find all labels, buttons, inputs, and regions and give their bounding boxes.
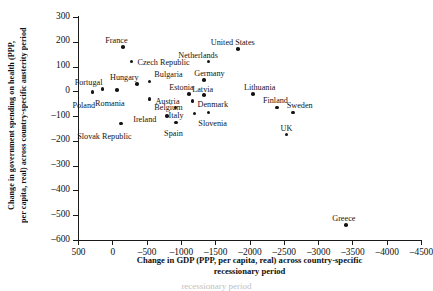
y-tick-label: –400 [51, 184, 70, 194]
x-tick: –1000 [181, 240, 182, 245]
x-axis-title: Change in GDP (PPP, per capita, real) ac… [78, 255, 421, 277]
y-tick-label: –200 [51, 134, 70, 144]
x-tick: 0 [112, 240, 113, 245]
data-point [251, 92, 255, 96]
y-tick: 0 [73, 91, 78, 92]
data-point [130, 60, 134, 64]
y-tick-label: –500 [51, 209, 70, 219]
data-point-label: Netherlands [178, 51, 218, 60]
data-point-label: Romania [95, 99, 125, 108]
data-point-label: Spain [164, 129, 183, 138]
data-point [344, 223, 348, 227]
data-point-label: UK [281, 124, 293, 133]
scatter-chart-figure: Change in government spending on health … [0, 0, 433, 291]
data-point [101, 87, 105, 91]
data-point [121, 45, 125, 49]
data-point-label: Austria [155, 97, 179, 106]
x-axis-title-line-2: recessionary period [78, 266, 421, 277]
data-point-label: Greece [332, 214, 355, 223]
x-tick: –3000 [318, 240, 319, 245]
y-tick-label: 200 [56, 35, 70, 45]
x-tick: –1500 [215, 240, 216, 245]
y-tick-label: 300 [56, 11, 70, 21]
y-tick: –200 [73, 141, 78, 142]
x-tick: –4500 [421, 240, 422, 245]
x-tick: –2000 [250, 240, 251, 245]
x-tick: 500 [78, 240, 79, 245]
data-point [91, 90, 95, 94]
y-tick: –400 [73, 190, 78, 191]
y-axis-line [78, 16, 79, 241]
data-point-label: Italy [169, 111, 184, 120]
data-point [275, 106, 279, 110]
x-axis-title-line-1: Change in GDP (PPP, per capita, real) ac… [78, 255, 421, 266]
x-tick: –2500 [284, 240, 285, 245]
data-point [135, 82, 139, 86]
data-point-label: Bulgaria [154, 70, 182, 79]
data-point-label: Ireland [133, 115, 156, 124]
data-point [193, 112, 197, 116]
data-point-label: France [105, 36, 127, 45]
y-tick-label: –100 [51, 110, 70, 120]
data-point [148, 80, 152, 84]
y-tick: –500 [73, 215, 78, 216]
data-point [291, 111, 295, 115]
y-tick: –300 [73, 166, 78, 167]
y-tick-label: –600 [51, 234, 70, 244]
data-point-label: Estonia [169, 83, 194, 92]
plot-area: 3002001000–100–200–300–400–500–600 5000–… [78, 17, 421, 240]
data-point-label: Poland [72, 101, 95, 110]
y-tick: 100 [73, 67, 78, 68]
data-point-label: Portugal [75, 78, 103, 87]
x-tick: –3500 [352, 240, 353, 245]
data-point [115, 88, 119, 92]
data-point [207, 111, 211, 115]
data-point [174, 121, 178, 125]
y-tick-label: 100 [56, 60, 70, 70]
y-tick: 300 [73, 17, 78, 18]
data-point [119, 122, 123, 126]
data-point-label: Slovenia [198, 119, 227, 128]
x-tick: –500 [147, 240, 148, 245]
data-point-label: Latvia [192, 85, 213, 94]
y-tick-label: 0 [65, 85, 70, 95]
data-point [236, 47, 240, 51]
y-tick: –100 [73, 116, 78, 117]
data-point [187, 92, 191, 96]
x-tick: –4000 [387, 240, 388, 245]
y-axis-title: Change in government spending on health … [0, 0, 30, 250]
data-point-label: Sweden [287, 101, 313, 110]
data-point-label: Germany [194, 69, 224, 78]
data-point-label: Hungary [110, 73, 139, 82]
data-point-label: Slovak Republic [77, 132, 131, 141]
y-tick: 200 [73, 42, 78, 43]
data-point-label: United States [211, 38, 255, 47]
data-point [285, 133, 289, 137]
y-tick-label: –300 [51, 159, 70, 169]
data-point [207, 60, 211, 64]
data-point-label: Lithuania [244, 83, 275, 92]
figure-caption: recessionary period [0, 281, 433, 291]
data-point-label: Finland [263, 96, 288, 105]
y-axis-title-line-2: per capita, real) across country-specifi… [17, 0, 31, 250]
data-point [202, 78, 206, 82]
data-point [148, 97, 152, 101]
data-point [191, 99, 195, 103]
data-point-label: Denmark [198, 100, 228, 109]
